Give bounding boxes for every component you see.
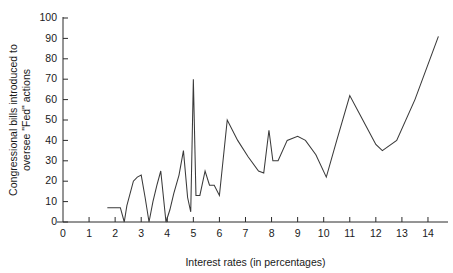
y-axis-ticks: 0102030405060708090100 [39, 11, 68, 227]
y-tick-label: 60 [45, 93, 57, 105]
y-axis-title: Congressional bills introduced tooversee… [7, 44, 32, 196]
y-tick-label: 20 [45, 174, 57, 186]
x-tick-label: 5 [190, 227, 196, 239]
y-tick-label: 100 [39, 11, 57, 23]
y-tick-label: 80 [45, 52, 57, 64]
y-tick-label: 0 [51, 215, 57, 227]
y-tick-label: 50 [45, 113, 57, 125]
y-axis-title-line: Congressional bills introduced to [7, 44, 19, 196]
y-tick-label: 70 [45, 72, 57, 84]
x-tick-label: 4 [164, 227, 170, 239]
x-tick-label: 6 [216, 227, 222, 239]
x-tick-label: 7 [243, 227, 249, 239]
chart-container: Congressional bills introduced tooversee… [0, 0, 453, 273]
y-axis-title-line: oversee "Fed" actions [20, 69, 32, 171]
x-tick-label: 2 [112, 227, 118, 239]
x-tick-label: 11 [344, 227, 355, 239]
y-tick-label: 30 [45, 154, 57, 166]
x-tick-label: 14 [422, 227, 434, 239]
y-tick-label: 40 [45, 134, 57, 146]
x-axis-title: Interest rates (in percentages) [185, 256, 325, 268]
x-tick-label: 0 [60, 227, 66, 239]
y-tick-label: 10 [45, 195, 57, 207]
data-series-line [107, 36, 438, 222]
y-tick-label: 90 [45, 32, 57, 44]
x-tick-label: 9 [295, 227, 301, 239]
x-tick-label: 13 [396, 227, 408, 239]
line-chart: Congressional bills introduced tooversee… [0, 0, 453, 273]
x-tick-label: 8 [269, 227, 275, 239]
x-tick-label: 1 [86, 227, 92, 239]
x-axis-ticks: 01234567891011121314 [60, 217, 434, 239]
x-tick-label: 3 [138, 227, 144, 239]
x-tick-label: 10 [318, 227, 330, 239]
x-tick-label: 12 [370, 227, 382, 239]
